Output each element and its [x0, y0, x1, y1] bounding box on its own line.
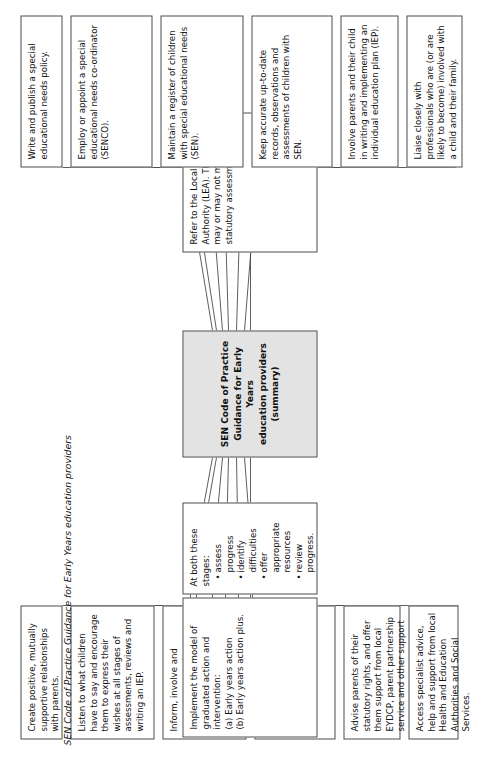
box-text: Maintain a register of children with spe…	[166, 22, 201, 159]
central-node-sen-code-of-practice[interactable]: SEN Code of Practice Guidance for Early …	[182, 330, 317, 457]
implement-model-item-b: (b) Early years action plus.	[234, 604, 246, 729]
both-stages-bullet: assess progress	[212, 509, 235, 578]
implement-model-heading: Implement the model of graduated action …	[188, 604, 223, 729]
box-involve-parents-iep[interactable]: Involve parents and their child in writi…	[340, 15, 398, 167]
central-node-line-2: Guidance for Early Years	[232, 347, 254, 441]
box-text: Listen to what children have to say and …	[76, 612, 145, 731]
both-stages-heading: At both these stages:	[188, 509, 211, 586]
central-node-line-1: SEN Code of Practice	[219, 340, 229, 446]
box-maintain-sen-register[interactable]: Maintain a register of children with spe…	[160, 15, 243, 167]
both-stages-bullet: review progress.	[293, 509, 316, 578]
box-liaise-with-professionals[interactable]: Liaise closely with professionals who ar…	[406, 15, 462, 167]
both-stages-bullets: assess progress identify difficulties of…	[212, 509, 316, 586]
implement-model-item-a: (a) Early years action	[223, 604, 235, 729]
box-text: Employ or appoint a special educational …	[76, 22, 111, 159]
figure-caption-text: SEN Code of Practice Guidance for Early …	[62, 435, 73, 745]
central-node-line-4: (summary)	[269, 366, 279, 421]
box-implement-graduated-model[interactable]: Implement the model of graduated action …	[182, 597, 317, 737]
central-node-line-3: education providers	[257, 343, 267, 445]
box-text: Write and publish a special educational …	[26, 22, 49, 159]
box-text: Liaise closely with professionals who ar…	[412, 22, 458, 159]
box-text: Create positive, mutually supportive rel…	[26, 612, 61, 731]
box-at-both-these-stages[interactable]: At both these stages: assess progress id…	[182, 502, 317, 594]
figure-caption: SEN Code of Practice Guidance for Early …	[62, 426, 73, 746]
box-advise-parents-statutory-rights[interactable]: Advise parents of their statutory rights…	[343, 605, 400, 739]
box-text: Involve parents and their child in writi…	[346, 22, 381, 159]
box-employ-appoint-senco[interactable]: Employ or appoint a special educational …	[70, 15, 152, 167]
box-write-publish-sen-policy[interactable]: Write and publish a special educational …	[20, 15, 62, 167]
flowchart-canvas: Create positive, mutually supportive rel…	[0, 0, 495, 757]
central-node-text: SEN Code of Practice Guidance for Early …	[218, 335, 280, 452]
box-access-specialist-advice[interactable]: Access specialist advice, help and suppo…	[408, 605, 458, 739]
box-listen-to-children[interactable]: Listen to what children have to say and …	[70, 605, 154, 739]
flowchart-page: Create positive, mutually supportive rel…	[0, 0, 495, 757]
box-keep-accurate-records[interactable]: Keep accurate up-to-date records, observ…	[251, 15, 332, 167]
box-create-positive-relationships[interactable]: Create positive, mutually supportive rel…	[20, 605, 62, 739]
box-text: Keep accurate up-to-date records, observ…	[257, 22, 303, 159]
both-stages-bullet: offer appropriate resources	[258, 509, 293, 578]
box-text: Access specialist advice, help and suppo…	[414, 612, 472, 731]
both-stages-bullet: identify difficulties	[235, 509, 258, 578]
